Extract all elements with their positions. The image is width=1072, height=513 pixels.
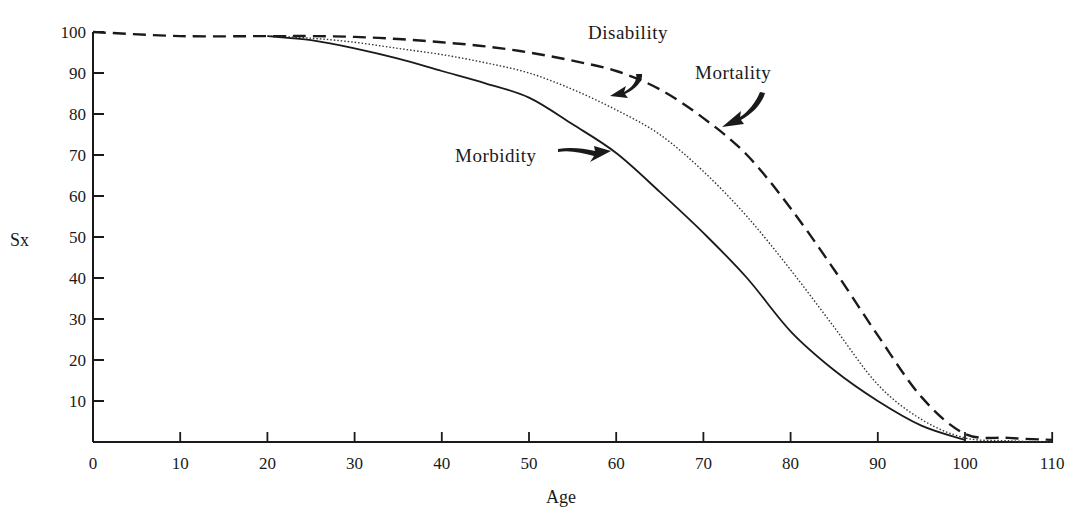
disability-arrow-icon <box>610 74 642 98</box>
x-tick-label: 60 <box>608 454 625 473</box>
x-tick-label: 110 <box>1040 454 1065 473</box>
morbidity-label: Morbidity <box>455 145 537 166</box>
x-axis-title: Age <box>546 487 576 507</box>
y-tick-label: 100 <box>61 23 87 42</box>
y-tick-label: 40 <box>69 269 86 288</box>
x-tick-label: 30 <box>346 454 363 473</box>
survival-curves-chart: 102030405060708090100 010203040506070809… <box>0 0 1072 513</box>
y-tick-label: 20 <box>69 351 86 370</box>
x-tick-label: 0 <box>89 454 98 473</box>
x-tick-label: 100 <box>952 454 978 473</box>
mortality-arrow-icon <box>722 92 765 127</box>
x-tick-label: 40 <box>433 454 450 473</box>
y-tick-label: 90 <box>69 64 86 83</box>
y-tick-label: 50 <box>69 228 86 247</box>
y-tick-label: 30 <box>69 310 86 329</box>
x-tick-label: 80 <box>782 454 799 473</box>
morbidity-arrow-icon <box>558 146 611 162</box>
x-tick-label: 90 <box>869 454 886 473</box>
y-ticks: 102030405060708090100 <box>61 23 105 411</box>
y-tick-label: 60 <box>69 187 86 206</box>
x-ticks: 0102030405060708090100110 <box>89 432 1065 473</box>
x-tick-label: 10 <box>172 454 189 473</box>
x-tick-label: 50 <box>521 454 538 473</box>
x-tick-label: 20 <box>259 454 276 473</box>
x-tick-label: 70 <box>695 454 712 473</box>
y-tick-label: 80 <box>69 105 86 124</box>
disability-label: Disability <box>588 22 668 43</box>
annotation-mortality: Mortality <box>695 62 771 127</box>
y-tick-label: 70 <box>69 146 86 165</box>
curves <box>93 32 1052 442</box>
mortality-curve <box>93 32 1052 440</box>
disability-curve <box>267 36 1052 442</box>
axes: 102030405060708090100 010203040506070809… <box>61 23 1065 473</box>
y-tick-label: 10 <box>69 392 86 411</box>
y-axis-title: Sx <box>10 230 29 250</box>
annotation-morbidity: Morbidity <box>455 145 611 166</box>
mortality-label: Mortality <box>695 62 771 83</box>
